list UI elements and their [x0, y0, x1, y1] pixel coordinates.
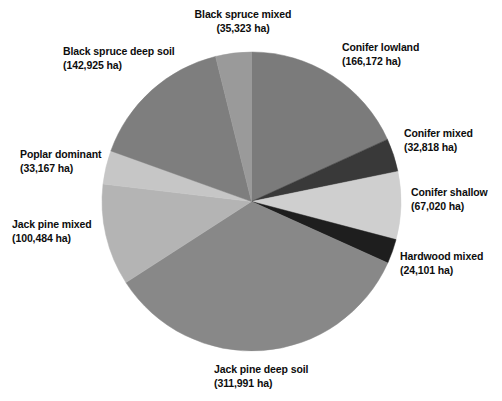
pie-label-name: Hardwood mixed	[400, 250, 502, 264]
pie-label-name: Jack pine deep soil	[214, 363, 364, 377]
pie-label-value: (166,172 ha)	[342, 55, 492, 69]
pie-chart-figure: Black spruce mixed (35,323 ha) Black spr…	[0, 0, 502, 401]
pie-label-name: Conifer shallow	[411, 186, 502, 200]
pie-label-hardwood-mixed: Hardwood mixed (24,101 ha)	[400, 250, 502, 277]
pie-label-black-spruce-mixed: Black spruce mixed (35,323 ha)	[158, 8, 328, 35]
pie-label-poplar-dominant: Poplar dominant (33,167 ha)	[20, 148, 140, 175]
pie-label-name: Poplar dominant	[20, 148, 140, 162]
pie-label-value: (32,818 ha)	[404, 141, 502, 155]
pie-label-conifer-shallow: Conifer shallow (67,020 ha)	[411, 186, 502, 213]
pie-label-value: (33,167 ha)	[20, 162, 140, 176]
pie-label-name: Conifer mixed	[404, 127, 502, 141]
pie-label-conifer-mixed: Conifer mixed (32,818 ha)	[404, 127, 502, 154]
pie-label-value: (142,925 ha)	[63, 59, 223, 73]
pie-slice-group	[102, 52, 401, 351]
pie-label-conifer-lowland: Conifer lowland (166,172 ha)	[342, 41, 492, 68]
pie-label-name: Black spruce mixed	[158, 8, 328, 22]
pie-label-value: (311,991 ha)	[214, 377, 364, 391]
pie-label-value: (100,484 ha)	[12, 232, 132, 246]
pie-label-value: (35,323 ha)	[158, 22, 328, 36]
pie-label-name: Jack pine mixed	[12, 218, 132, 232]
pie-label-black-spruce-deep-soil: Black spruce deep soil (142,925 ha)	[63, 45, 223, 72]
pie-label-jack-pine-deep-soil: Jack pine deep soil (311,991 ha)	[214, 363, 364, 390]
pie-label-value: (67,020 ha)	[411, 200, 502, 214]
pie-label-value: (24,101 ha)	[400, 264, 502, 278]
pie-label-name: Black spruce deep soil	[63, 45, 223, 59]
pie-label-jack-pine-mixed: Jack pine mixed (100,484 ha)	[12, 218, 132, 245]
pie-label-name: Conifer lowland	[342, 41, 492, 55]
